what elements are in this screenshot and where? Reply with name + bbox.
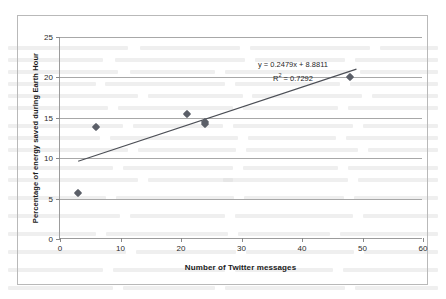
r-squared-number: = 0.7292: [281, 74, 313, 83]
x-tick-label: 0: [58, 244, 62, 253]
x-axis-title: Number of Twitter messages: [59, 263, 422, 272]
x-tick-label: 20: [177, 244, 186, 253]
scatter-point: [92, 123, 100, 131]
scatter-point: [346, 72, 354, 80]
ghost-text-line: [355, 286, 438, 290]
trendline-equation-annotation: y = 0.2479x + 8.8811 R2 = 0.7292: [258, 59, 328, 84]
chart-frame: Percentage of energy saved during Earth …: [17, 15, 428, 285]
scatter-point: [74, 189, 82, 197]
x-tick-label: 60: [419, 244, 428, 253]
y-tick-label: 15: [44, 113, 53, 122]
y-tick-label: 20: [44, 73, 53, 82]
y-tick-label: 0: [49, 235, 53, 244]
plot-area: 0510152025 0102030405060 y = 0.2479x + 8…: [59, 37, 422, 239]
y-tick-label: 5: [49, 194, 53, 203]
y-tick-label: 25: [44, 33, 53, 42]
r-squared-value: R2 = 0.7292: [258, 70, 328, 84]
ghost-text-line: [123, 286, 215, 290]
x-tick-mark: [423, 238, 424, 242]
y-tick-label: 10: [44, 154, 53, 163]
y-axis-title: Percentage of energy saved during Earth …: [30, 37, 42, 239]
ghost-text-line: [8, 286, 113, 290]
scatter-markers: [60, 37, 422, 238]
x-tick-label: 10: [116, 244, 125, 253]
x-tick-label: 50: [358, 244, 367, 253]
regression-equation: y = 0.2479x + 8.8811: [258, 59, 328, 70]
scatter-point: [183, 110, 191, 118]
x-tick-label: 30: [237, 244, 246, 253]
ghost-text-line: [225, 286, 345, 290]
x-tick-label: 40: [298, 244, 307, 253]
